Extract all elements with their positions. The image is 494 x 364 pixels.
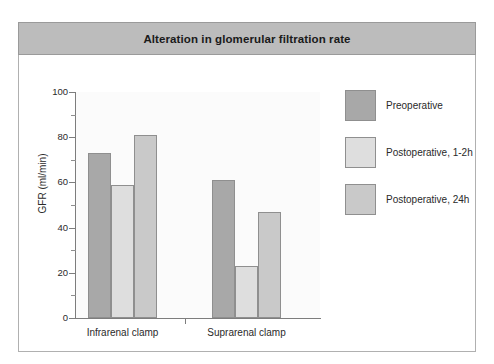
y-tick-label: 40 bbox=[28, 222, 68, 233]
bar bbox=[258, 212, 281, 318]
y-tick-minor bbox=[71, 250, 76, 251]
y-tick-major bbox=[69, 228, 76, 229]
bar bbox=[111, 185, 134, 318]
bar bbox=[235, 266, 258, 318]
figure-title-band: Alteration in glomerular filtration rate bbox=[18, 22, 476, 55]
legend-item: Preoperative bbox=[345, 90, 443, 121]
y-tick-minor bbox=[71, 295, 76, 296]
x-tick-label: Infrarenal clamp bbox=[53, 327, 193, 338]
legend-item: Postoperative, 1-2h bbox=[345, 137, 473, 168]
y-tick-label: 100 bbox=[28, 86, 68, 97]
bar bbox=[134, 135, 157, 318]
figure-container: Alteration in glomerular filtration rate… bbox=[0, 0, 494, 364]
y-tick-label: 80 bbox=[28, 131, 68, 142]
y-tick-minor bbox=[71, 205, 76, 206]
y-tick-major bbox=[69, 182, 76, 183]
legend-swatch bbox=[345, 137, 376, 168]
legend-swatch bbox=[345, 184, 376, 215]
legend-label: Preoperative bbox=[386, 100, 443, 111]
x-group-separator-tick bbox=[185, 318, 186, 324]
bar bbox=[88, 153, 111, 318]
y-tick-label: 60 bbox=[28, 176, 68, 187]
y-tick-minor bbox=[71, 160, 76, 161]
y-tick-label: 0 bbox=[28, 312, 68, 323]
y-tick-label-wrap: 20 bbox=[24, 273, 68, 285]
page-title: Alteration in glomerular filtration rate bbox=[143, 33, 350, 45]
y-tick-major bbox=[69, 273, 76, 274]
x-axis-line bbox=[75, 318, 321, 319]
y-tick-label: 20 bbox=[28, 267, 68, 278]
legend-item: Postoperative, 24h bbox=[345, 184, 469, 215]
y-tick-minor bbox=[71, 115, 76, 116]
y-axis-title: GFR (ml/min) bbox=[37, 124, 48, 244]
y-tick-major bbox=[69, 318, 76, 319]
legend-label: Postoperative, 1-2h bbox=[386, 147, 473, 158]
legend-label: Postoperative, 24h bbox=[386, 194, 469, 205]
x-tick-label: Suprarenal clamp bbox=[177, 327, 317, 338]
bar bbox=[212, 180, 235, 318]
y-tick-label-wrap: 100 bbox=[24, 92, 68, 104]
legend-swatch bbox=[345, 90, 376, 121]
y-tick-major bbox=[69, 137, 76, 138]
y-tick-major bbox=[69, 92, 76, 93]
